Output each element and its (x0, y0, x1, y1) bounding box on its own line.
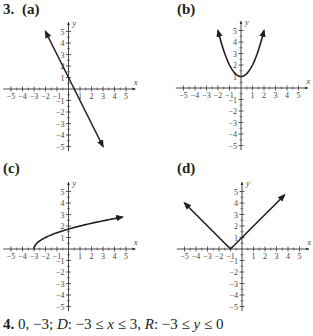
x-tick-label: 5 (297, 91, 301, 100)
y-tick-label: −5 (56, 143, 65, 152)
y-tick-label: −3 (56, 120, 65, 129)
y-tick-label: 3 (61, 51, 65, 60)
y-tick-label: −4 (228, 130, 237, 139)
graphs-canvas: −5−5−4−4−3−3−2−2−1−11122334455xy−5−5−4−4… (0, 0, 313, 336)
y-tick-label: −3 (229, 280, 238, 289)
x-tick-label: −4 (191, 91, 200, 100)
y-tick-label: −1 (228, 96, 237, 105)
y-tick-label: 2 (233, 61, 237, 70)
y-tick-label: 3 (61, 211, 65, 220)
x-tick-label: 5 (124, 252, 128, 261)
x-tick-label: 5 (124, 92, 128, 101)
y-tick-label: 1 (61, 74, 65, 83)
y-axis-label: y (72, 179, 77, 188)
x-axis-label: x (307, 238, 312, 247)
domain-label: D (57, 316, 68, 332)
y-axis-label: y (72, 19, 77, 28)
y-tick-label: −2 (56, 108, 65, 117)
y-tick-label: −2 (56, 268, 65, 277)
y-tick-label: 5 (61, 188, 65, 197)
x-tick-label: 2 (90, 252, 94, 261)
x-tick-label: −3 (203, 252, 212, 261)
x-tick-label: 1 (252, 252, 256, 261)
intercepts: 0, −3; (18, 316, 53, 332)
y-tick-label: −2 (229, 268, 238, 277)
x-tick-label: −5 (7, 92, 16, 101)
curve-c (34, 217, 123, 249)
x-tick-label: 3 (275, 252, 279, 261)
y-tick-label: −1 (56, 257, 65, 266)
y-tick-label: 3 (233, 50, 237, 59)
y-tick-label: −1 (56, 97, 65, 106)
x-tick-label: 4 (113, 252, 117, 261)
x-tick-label: 4 (286, 252, 290, 261)
y-axis-label: y (245, 179, 250, 188)
x-tick-label: −5 (7, 252, 16, 261)
y-tick-label: −3 (56, 280, 65, 289)
x-tick-label: −5 (180, 252, 189, 261)
y-tick-label: −2 (228, 107, 237, 116)
x-tick-label: 4 (113, 92, 117, 101)
y-tick-label: 2 (234, 222, 238, 231)
y-tick-label: −4 (56, 291, 65, 300)
y-tick-label: −5 (229, 303, 238, 312)
x-tick-label: −2 (215, 252, 224, 261)
y-tick-label: 4 (233, 38, 237, 47)
x-tick-label: 3 (101, 252, 105, 261)
y-tick-label: 4 (61, 199, 65, 208)
x-tick-label: 4 (285, 91, 289, 100)
graph-c: −5−5−4−4−3−3−2−2−1−11122334455xy (3, 179, 138, 312)
x-axis-label: x (306, 77, 311, 86)
y-tick-label: −5 (228, 142, 237, 151)
x-tick-label: 2 (263, 252, 267, 261)
x-tick-label: −4 (18, 92, 27, 101)
x-tick-label: 5 (298, 252, 302, 261)
x-tick-label: −2 (214, 91, 223, 100)
x-tick-label: 3 (274, 91, 278, 100)
y-tick-label: 5 (233, 27, 237, 36)
y-tick-label: 3 (234, 211, 238, 220)
x-tick-label: −4 (192, 252, 201, 261)
x-tick-label: 1 (78, 252, 82, 261)
range-end: ≤ 0 (200, 316, 223, 332)
y-tick-label: −4 (56, 131, 65, 140)
x-tick-label: 2 (262, 91, 266, 100)
x-tick-label: 2 (90, 92, 94, 101)
x-tick-label: 3 (101, 92, 105, 101)
x-axis-label: x (133, 78, 138, 87)
graph-d: −5−5−4−4−3−3−2−2−1−11122334455xy (177, 179, 312, 312)
domain-end: ≤ 3, (114, 316, 145, 332)
y-tick-label: 5 (61, 28, 65, 37)
y-tick-label: −1 (229, 257, 238, 266)
x-tick-label: −4 (18, 252, 27, 261)
x-tick-label: −3 (202, 91, 211, 100)
domain-var: x (107, 316, 114, 332)
problem-4-answer: 4. 0, −3; D: −3 ≤ x ≤ 3, R: −3 ≤ y ≤ 0 (3, 316, 223, 333)
y-tick-label: 1 (61, 234, 65, 243)
y-tick-label: 5 (234, 188, 238, 197)
graph-a: −5−5−4−4−3−3−2−2−1−11122334455xy (3, 19, 138, 152)
y-axis-label: y (244, 18, 249, 27)
x-tick-label: 1 (251, 91, 255, 100)
x-tick-label: −2 (41, 252, 50, 261)
y-tick-label: −5 (56, 303, 65, 312)
x-tick-label: −2 (41, 92, 50, 101)
y-tick-label: 4 (61, 39, 65, 48)
x-tick-label: −3 (30, 252, 39, 261)
x-axis-label: x (133, 238, 138, 247)
problem-4-number: 4. (3, 316, 14, 332)
range-text: : −3 ≤ (154, 316, 194, 332)
range-label: R (145, 316, 154, 332)
y-tick-label: −3 (228, 119, 237, 128)
domain-text: : −3 ≤ (68, 316, 108, 332)
y-tick-label: 4 (234, 199, 238, 208)
graph-b: −5−5−4−4−3−3−2−2−1−11122334455xy (176, 18, 311, 151)
y-tick-label: −4 (229, 291, 238, 300)
x-tick-label: −5 (179, 91, 188, 100)
x-tick-label: −3 (30, 92, 39, 101)
